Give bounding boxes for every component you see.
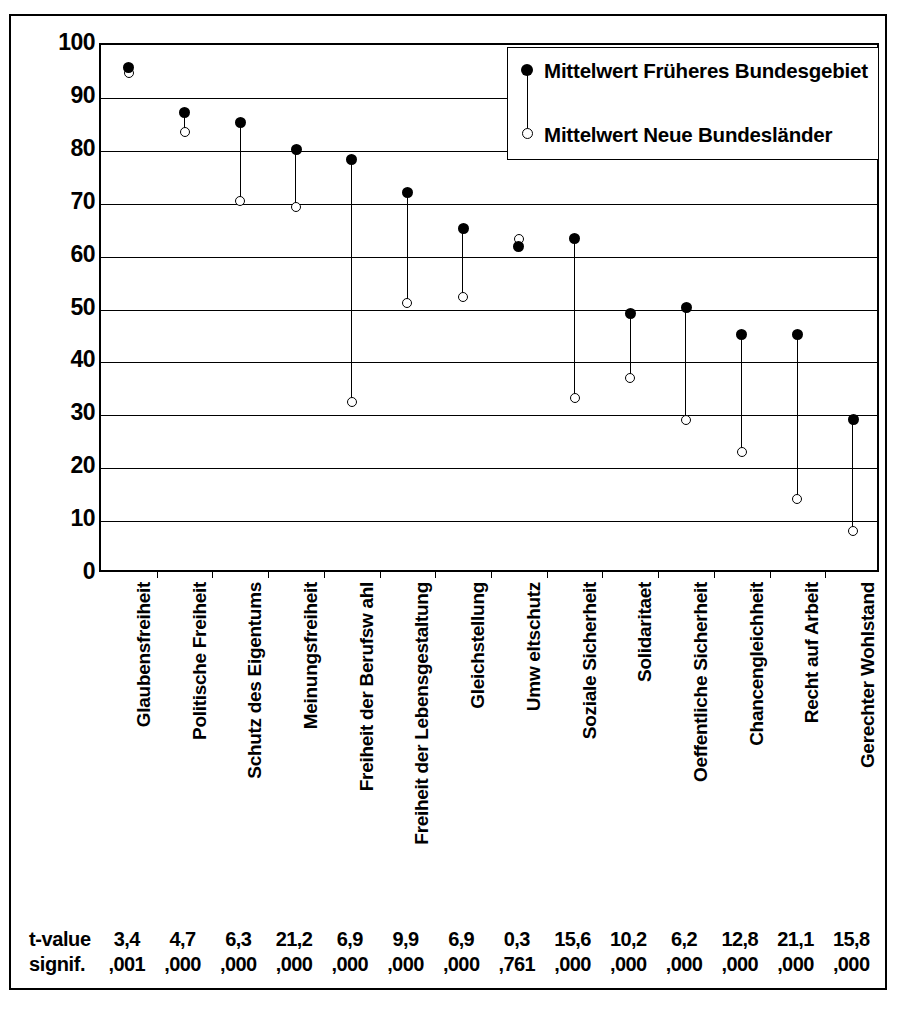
t-value-cell: 6,9 bbox=[448, 928, 474, 951]
marker-frueheres-bundesgebiet bbox=[458, 223, 469, 234]
significance-cell: ,000 bbox=[276, 953, 313, 976]
marker-neue-bundeslaender bbox=[180, 127, 190, 137]
significance-cell: ,000 bbox=[721, 953, 758, 976]
x-tick bbox=[212, 570, 213, 578]
significance-cell: ,001 bbox=[109, 953, 146, 976]
marker-frueheres-bundesgebiet bbox=[848, 414, 859, 425]
x-tick bbox=[602, 570, 603, 578]
t-value-row-label: t-value bbox=[29, 928, 91, 951]
data-point-connector bbox=[574, 239, 575, 399]
significance-cell: ,000 bbox=[220, 953, 257, 976]
significance-cell: ,761 bbox=[499, 953, 536, 976]
marker-neue-bundeslaender bbox=[681, 415, 691, 425]
x-tick bbox=[435, 570, 436, 578]
marker-frueheres-bundesgebiet bbox=[792, 329, 803, 340]
t-value-cell: 9,9 bbox=[392, 928, 418, 951]
significance-cell: ,000 bbox=[443, 953, 480, 976]
y-tick-label: 20 bbox=[70, 454, 95, 477]
y-tick-label: 0 bbox=[83, 560, 95, 583]
y-tick-label: 40 bbox=[70, 348, 95, 371]
t-value-cell: 0,3 bbox=[504, 928, 530, 951]
significance-row-label: signif. bbox=[29, 953, 85, 976]
category-label: Freiheit der Berufsw ahl bbox=[357, 582, 376, 791]
marker-frueheres-bundesgebiet bbox=[346, 154, 357, 165]
marker-frueheres-bundesgebiet bbox=[513, 241, 524, 252]
marker-frueheres-bundesgebiet bbox=[402, 187, 413, 198]
marker-neue-bundeslaender bbox=[792, 494, 802, 504]
gridline bbox=[101, 521, 877, 522]
category-label: Glaubensfreiheit bbox=[134, 582, 153, 727]
significance-row: signif. ,001,000,000,000,000,000,000,761… bbox=[20, 953, 875, 979]
x-tick bbox=[825, 570, 826, 578]
gridline bbox=[101, 415, 877, 416]
gridline bbox=[101, 204, 877, 205]
category-label: Politische Freiheit bbox=[190, 582, 209, 740]
marker-frueheres-bundesgebiet bbox=[235, 117, 246, 128]
category-label: Freiheit der Lebensgestaltung bbox=[412, 582, 431, 845]
t-value-cell: 3,4 bbox=[114, 928, 140, 951]
marker-frueheres-bundesgebiet bbox=[569, 233, 580, 244]
marker-neue-bundeslaender bbox=[737, 447, 747, 457]
legend-open-circle-icon bbox=[522, 128, 533, 139]
category-label: Gleichstellung bbox=[468, 582, 487, 709]
data-point-connector bbox=[240, 122, 241, 201]
y-tick-label: 80 bbox=[70, 137, 95, 160]
x-tick bbox=[658, 570, 659, 578]
marker-neue-bundeslaender bbox=[848, 526, 858, 536]
t-value-cell: 12,8 bbox=[721, 928, 758, 951]
y-tick-label: 70 bbox=[70, 190, 95, 213]
x-tick bbox=[324, 570, 325, 578]
y-tick-label: 100 bbox=[58, 31, 95, 54]
y-tick-label: 10 bbox=[70, 507, 95, 530]
data-point-connector bbox=[407, 192, 408, 303]
category-label: Meinungsfreiheit bbox=[301, 582, 320, 729]
data-point-connector bbox=[685, 308, 686, 420]
t-value-cell: 21,1 bbox=[777, 928, 814, 951]
y-tick-label: 60 bbox=[70, 243, 95, 266]
y-tick-label: 50 bbox=[70, 296, 95, 319]
marker-frueheres-bundesgebiet bbox=[681, 302, 692, 313]
significance-cell: ,000 bbox=[777, 953, 814, 976]
t-value-cell: 21,2 bbox=[276, 928, 313, 951]
significance-cell: ,000 bbox=[666, 953, 703, 976]
data-point-connector bbox=[630, 314, 631, 378]
gridline bbox=[101, 310, 877, 311]
data-point-connector bbox=[351, 159, 352, 402]
marker-neue-bundeslaender bbox=[625, 373, 635, 383]
significance-cell: ,000 bbox=[554, 953, 591, 976]
t-value-cell: 6,3 bbox=[225, 928, 251, 951]
legend-label-frueheres-bundesgebiet: Mittelwert Früheres Bundesgebiet bbox=[544, 59, 868, 83]
data-point-connector bbox=[797, 334, 798, 499]
data-point-connector bbox=[852, 420, 853, 531]
t-value-cell: 15,6 bbox=[554, 928, 591, 951]
significance-cell: ,000 bbox=[833, 953, 870, 976]
x-tick bbox=[268, 570, 269, 578]
marker-neue-bundeslaender bbox=[570, 393, 580, 403]
gridline bbox=[101, 468, 877, 469]
marker-neue-bundeslaender bbox=[402, 298, 412, 308]
t-value-cell: 4,7 bbox=[170, 928, 196, 951]
x-tick bbox=[547, 570, 548, 578]
marker-neue-bundeslaender bbox=[347, 397, 357, 407]
marker-frueheres-bundesgebiet bbox=[179, 107, 190, 118]
marker-frueheres-bundesgebiet bbox=[123, 62, 134, 73]
y-tick-label: 90 bbox=[70, 84, 95, 107]
data-point-connector bbox=[462, 228, 463, 297]
significance-cell: ,000 bbox=[387, 953, 424, 976]
t-value-cell: 10,2 bbox=[610, 928, 647, 951]
x-tick bbox=[380, 570, 381, 578]
marker-neue-bundeslaender bbox=[458, 292, 468, 302]
significance-cell: ,000 bbox=[331, 953, 368, 976]
gridline bbox=[101, 257, 877, 258]
t-value-row: t-value 3,44,76,321,26,99,96,90,315,610,… bbox=[20, 928, 875, 954]
category-label: Oeffentliche Sicherheit bbox=[691, 582, 710, 782]
legend-label-neue-bundeslaender: Mittelwert Neue Bundesländer bbox=[544, 123, 832, 147]
legend-connector-line bbox=[527, 70, 528, 134]
category-label: Schutz des Eigentums bbox=[245, 582, 264, 779]
t-value-cell: 6,2 bbox=[671, 928, 697, 951]
t-value-cell: 6,9 bbox=[337, 928, 363, 951]
marker-frueheres-bundesgebiet bbox=[625, 308, 636, 319]
legend: Mittelwert Früheres Bundesgebiet Mittelw… bbox=[507, 47, 879, 160]
data-point-connector bbox=[295, 150, 296, 208]
category-label: Soziale Sicherheit bbox=[580, 582, 599, 739]
